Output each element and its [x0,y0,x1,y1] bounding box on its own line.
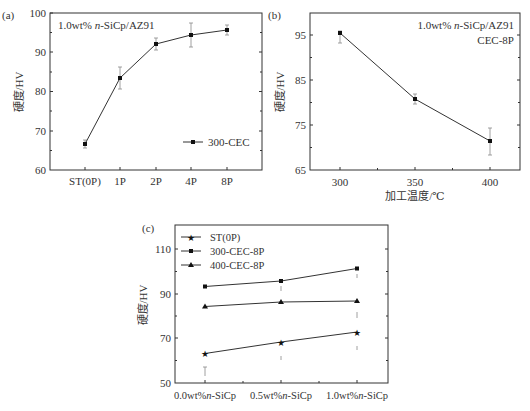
y-tick-labels-b: 95 85 75 65 [295,29,307,176]
svg-text:0.0wt%n-SiCp: 0.0wt%n-SiCp [174,390,236,401]
svg-text:100: 100 [30,7,47,19]
error-bars-b [338,31,492,155]
svg-text:95: 95 [295,29,307,41]
svg-text:400-CEC-8P: 400-CEC-8P [210,260,264,271]
legend-c: ★ ST(0P) 300-CEC-8P 400-CEC-8P [181,232,264,271]
x-tick-labels-c: 0.0wt%n-SiCp 0.5wt%n-SiCp 1.0wt%n-SiCp [174,390,388,401]
legend-a: 300-CEC [183,136,250,148]
svg-text:50: 50 [160,377,172,389]
figure: (a) 100 90 80 70 60 ST(0P) 1P 2P 4 [0,0,530,411]
svg-text:75: 75 [295,119,307,131]
svg-text:70: 70 [160,332,172,344]
svg-text:65: 65 [295,164,307,176]
svg-text:70: 70 [35,125,47,137]
annotation-b: 1.0wt% n-SiCp/AZ91 [417,19,514,31]
svg-text:90: 90 [35,46,47,58]
y-tick-labels-a: 100 90 80 70 60 [30,7,47,176]
svg-text:60: 60 [35,164,47,176]
svg-text:400: 400 [482,176,499,188]
square-icon [189,249,193,253]
series-line-cec-8p [340,33,490,141]
svg-text:80: 80 [35,85,47,97]
markers-a [83,28,229,146]
svg-text:85: 85 [295,74,307,86]
star-icon: ★ [187,233,195,243]
y-axis-label-a: 硬度/HV [12,71,25,112]
svg-text:300-CEC: 300-CEC [208,136,250,148]
svg-text:8P: 8P [221,175,233,187]
panel-label-a: (a) [2,9,15,22]
svg-text:★: ★ [353,328,361,338]
panel-label-b: (b) [268,9,281,22]
svg-text:★: ★ [201,349,209,359]
annotation-b-2: CEC-8P [477,34,514,46]
svg-text:300: 300 [332,176,349,188]
svg-text:110: 110 [155,243,172,255]
markers-c: ★ ★ ★ [201,267,361,360]
error-bars-a [83,23,229,148]
svg-text:ST(0P): ST(0P) [210,232,241,244]
svg-text:★: ★ [277,338,285,348]
chart-b: (b) 95 85 75 65 300 350 400 加工温度/℃ 硬度/ [268,9,520,202]
y-axis-label-b: 硬度/HV [273,71,286,112]
svg-text:350: 350 [407,176,424,188]
markers-b [338,31,492,143]
chart-a: (a) 100 90 80 70 60 ST(0P) 1P 2P 4 [2,7,262,188]
svg-text:1.0wt%n-SiCp: 1.0wt%n-SiCp [326,390,388,401]
annotation-a: 1.0wt% n-SiCp/AZ91 [58,19,155,31]
svg-text:0.5wt%n-SiCp: 0.5wt%n-SiCp [250,390,312,401]
y-axis-label-c: 硬度/HV [136,284,149,325]
svg-text:ST(0P): ST(0P) [69,175,101,188]
series-line-300-cec-8p [205,269,357,287]
chart-c: (c) 110 90 70 50 0.0wt%n-SiCp 0.5wt%n-Si… [136,222,388,401]
svg-text:300-CEC-8P: 300-CEC-8P [210,246,264,257]
svg-text:1P: 1P [114,175,126,187]
svg-text:2P: 2P [150,175,162,187]
svg-text:4P: 4P [185,175,197,187]
panel-label-c: (c) [142,222,155,235]
x-tick-labels-b: 300 350 400 [332,176,499,188]
x-axis-label-b: 加工温度/℃ [385,189,444,202]
x-tick-labels-a: ST(0P) 1P 2P 4P 8P [69,175,233,188]
error-bars-c [203,274,357,376]
svg-text:90: 90 [160,288,172,300]
y-tick-labels-c: 110 90 70 50 [155,243,172,389]
